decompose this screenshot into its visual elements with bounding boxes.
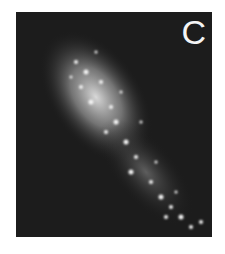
panel-label: C (181, 12, 206, 52)
micrograph-panel: C (16, 12, 212, 237)
